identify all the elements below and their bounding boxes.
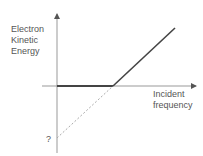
y-label-line-2: Kinetic xyxy=(11,35,44,46)
y-label-line-1: Electron xyxy=(11,24,44,35)
x-axis-label: Incident frequency xyxy=(153,89,193,111)
kinetic-energy-line xyxy=(113,28,175,86)
y-axis-label: Electron Kinetic Energy xyxy=(11,24,44,57)
x-label-line-1: Incident xyxy=(153,89,193,100)
x-label-line-2: frequency xyxy=(153,100,193,111)
y-label-line-3: Energy xyxy=(11,46,44,57)
extrapolated-dashed-line xyxy=(57,86,113,138)
intercept-label: ? xyxy=(46,134,51,145)
